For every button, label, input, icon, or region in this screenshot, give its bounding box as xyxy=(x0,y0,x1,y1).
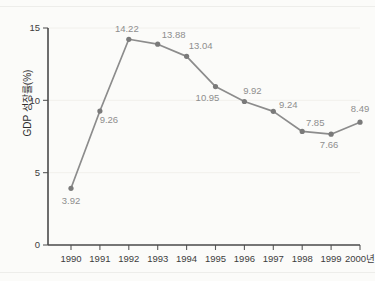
chart-figure: 051015 199019911992199319941995199619971… xyxy=(0,0,375,281)
data-point-label: 10.95 xyxy=(196,92,220,103)
data-point-marker xyxy=(357,120,362,125)
data-point-marker xyxy=(184,54,189,59)
data-point-label: 9.26 xyxy=(100,114,119,125)
data-point-marker xyxy=(271,109,276,114)
y-tick-label: 15 xyxy=(29,22,40,33)
y-tick-label: 0 xyxy=(35,239,40,250)
data-point-label: 9.24 xyxy=(279,99,298,110)
data-point-marker xyxy=(300,129,305,134)
x-tick-label: 1991 xyxy=(89,253,110,264)
y-axis-title: GDP 성장률(%) xyxy=(22,70,33,137)
x-tick-label: 1993 xyxy=(147,253,168,264)
data-point-label: 14.22 xyxy=(115,23,139,34)
data-point-labels: 3.929.2614.2213.8813.0410.959.929.247.85… xyxy=(62,23,370,206)
data-point-marker xyxy=(242,99,247,104)
data-point-label: 7.66 xyxy=(320,139,339,150)
data-point-marker xyxy=(213,84,218,89)
data-point-label: 9.92 xyxy=(243,85,262,96)
x-axis-ticks: 1990199119921993199419951996199719981999… xyxy=(60,245,375,264)
x-tick-label: 1995 xyxy=(205,253,226,264)
data-point-label: 13.88 xyxy=(162,29,186,40)
x-tick-label: 1990 xyxy=(60,253,81,264)
gdp-growth-line-chart: 051015 199019911992199319941995199619971… xyxy=(0,0,375,281)
y-tick-label: 5 xyxy=(35,167,40,178)
x-tick-label: 1992 xyxy=(118,253,139,264)
x-tick-label: 1998 xyxy=(292,253,313,264)
data-point-marker xyxy=(126,37,131,42)
x-tick-label: 1997 xyxy=(263,253,284,264)
data-point-label: 8.49 xyxy=(351,103,370,114)
x-tick-label: 2000년 xyxy=(345,253,375,264)
data-point-label: 13.04 xyxy=(189,40,213,51)
x-tick-label: 1994 xyxy=(176,253,197,264)
data-point-marker xyxy=(155,42,160,47)
data-point-label: 3.92 xyxy=(62,195,81,206)
data-point-label: 7.85 xyxy=(306,117,325,128)
x-tick-label: 1999 xyxy=(321,253,342,264)
data-point-marker xyxy=(97,108,102,113)
data-point-marker xyxy=(329,132,334,137)
x-tick-label: 1996 xyxy=(234,253,255,264)
data-point-marker xyxy=(68,186,73,191)
